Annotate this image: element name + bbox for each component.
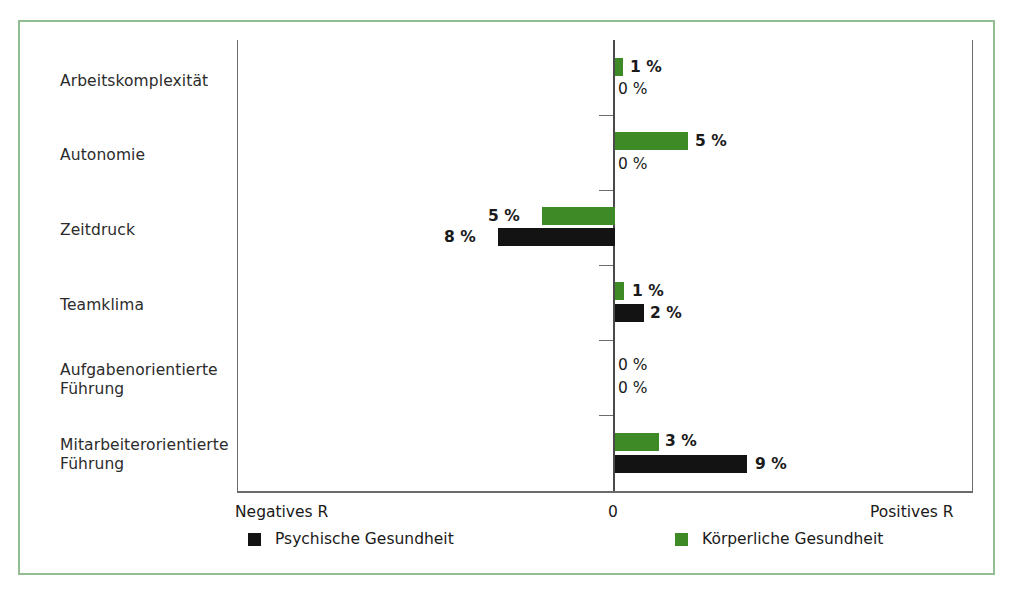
axis-tick [599,190,613,191]
value-label-koerperliche-teamklima: 1 % [632,282,664,300]
value-label-koerperliche-aufgabenorientierte: 0 % [618,356,648,374]
category-label-aufgabenorientierte-fuehrung: Aufgabenorientierte Führung [60,361,218,399]
left-axis-line [237,40,238,492]
legend-swatch-green-icon [675,533,688,546]
value-label-psychische-zeitdruck: 8 % [444,228,476,246]
axis-label-negative: Negatives R [235,503,328,521]
value-label-koerperliche-autonomie: 5 % [695,132,727,150]
bar-koerperliche-autonomie [615,132,688,150]
chart-frame: Arbeitskomplexität Autonomie Zeitdruck T… [18,20,995,575]
legend-label-koerperliche: Körperliche Gesundheit [702,530,883,548]
zero-axis-line [613,40,615,492]
axis-tick [599,415,613,416]
axis-label-positive: Positives R [870,503,954,521]
bar-psychische-teamklima [615,304,644,322]
legend-item-koerperliche[interactable]: Körperliche Gesundheit [675,530,883,548]
legend-swatch-black-icon [248,533,261,546]
value-label-koerperliche-arbeitskomplexitaet: 1 % [630,58,662,76]
plot-area: Arbeitskomplexität Autonomie Zeitdruck T… [20,22,993,573]
value-label-koerperliche-mitarbeiterorientierte: 3 % [665,432,697,450]
bar-koerperliche-mitarbeiterorientierte [615,433,659,451]
axis-tick [599,340,613,341]
axis-tick [599,265,613,266]
chart-legend: Psychische Gesundheit Körperliche Gesund… [20,530,993,570]
category-label-arbeitskomplexitaet: Arbeitskomplexität [60,72,208,91]
category-label-zeitdruck: Zeitdruck [60,221,135,240]
base-axis-line [237,491,973,493]
axis-label-zero: 0 [608,503,618,521]
legend-item-psychische[interactable]: Psychische Gesundheit [248,530,454,548]
bar-psychische-zeitdruck [498,228,615,246]
legend-label-psychische: Psychische Gesundheit [275,530,454,548]
value-label-koerperliche-zeitdruck: 5 % [488,207,520,225]
category-label-teamklima: Teamklima [60,296,144,315]
value-label-psychische-autonomie: 0 % [618,155,648,173]
bar-psychische-mitarbeiterorientierte [615,455,747,473]
value-label-psychische-teamklima: 2 % [650,304,682,322]
category-label-mitarbeiterorientierte-fuehrung: Mitarbeiterorientierte Führung [60,436,229,474]
bar-koerperliche-arbeitskomplexitaet [615,58,623,76]
value-label-psychische-aufgabenorientierte: 0 % [618,379,648,397]
category-label-autonomie: Autonomie [60,146,145,165]
bar-koerperliche-zeitdruck [542,207,615,225]
value-label-psychische-arbeitskomplexitaet: 0 % [618,80,648,98]
bar-koerperliche-teamklima [615,282,624,300]
right-axis-line [972,40,973,492]
value-label-psychische-mitarbeiterorientierte: 9 % [755,455,787,473]
axis-tick [599,115,613,116]
